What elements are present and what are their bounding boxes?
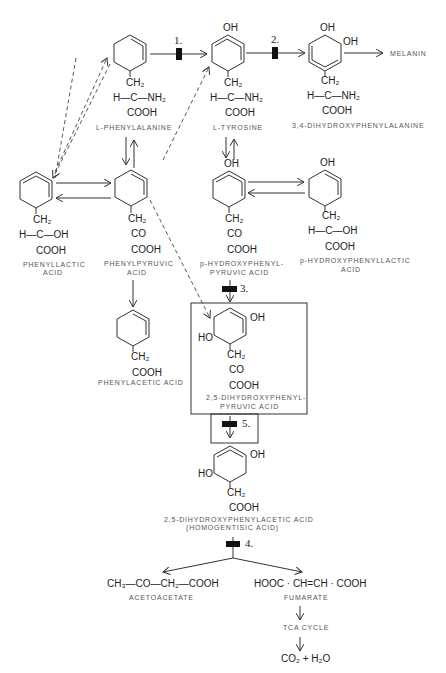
hga-oh: OH: [250, 449, 265, 460]
benzene-ring-icon: [212, 35, 244, 71]
compound-phenylacetic-acid: CH₂ COOH PHENYLACETIC ACID: [98, 310, 184, 386]
enzyme-block-5-icon: [222, 421, 237, 427]
hga-label-2: (HOMOGENTISIC ACID): [186, 524, 279, 532]
compound-dopa: OH OH CH₂ H—C—NH₂ COOH 3,4-DIHYDROXYPHEN…: [292, 22, 424, 129]
co2-h2o-formula: CO₂ + H₂O: [281, 653, 330, 664]
dhpp-ch2: CH₂: [227, 349, 245, 360]
dhpp-cooh: COOH: [229, 380, 259, 391]
hga-ch2: CH₂: [227, 487, 245, 498]
benzene-ring-icon: [214, 446, 246, 482]
compound-phenylpyruvic-acid: CH₂ CO COOH PHENYLPYRUVIC ACID: [104, 170, 174, 276]
dhpp-oh: OH: [250, 312, 265, 323]
benzene-ring-icon: [309, 35, 341, 71]
compound-homogentisic-acid: OH HO CH₂ COOH 2,5-DIHYDROXYPHENYLACETIC…: [164, 446, 314, 532]
arrow-to-fumarate: [233, 558, 302, 572]
hpp-oh: OH: [224, 158, 239, 169]
phenylalanine-hcnh2: H—C—NH₂: [113, 92, 166, 103]
pp-cooh: COOH: [131, 244, 161, 255]
acetoacetate-label: ACETOACETATE: [129, 594, 194, 601]
benzene-ring-icon: [309, 170, 341, 206]
hpl-ch2: CH₂: [322, 210, 340, 221]
benzene-ring-icon: [213, 171, 245, 207]
dashed-line: [55, 58, 76, 178]
compound-hydroxyphenyllactic-acid: OH CH₂ H—C—OH COOH p-HYDROXYPHENYLLACTIC…: [300, 157, 411, 273]
pl-label-1: PHENYLLACTIC: [23, 261, 86, 268]
hpl-label-2: ACID: [341, 266, 361, 273]
hpl-oh: OH: [320, 157, 335, 168]
metabolic-pathway-diagram: CH₂ H—C—NH₂ COOH L-PHENYLALANINE 1. OH C…: [0, 0, 446, 673]
tyrosine-oh: OH: [223, 22, 238, 33]
tyrosine-label: L-TYROSINE: [213, 124, 263, 131]
fumarate-formula: HOOC · CH=CH · COOH: [254, 578, 367, 589]
highlight-box-block-5: [211, 414, 258, 443]
phenylalanine-cooh: COOH: [127, 107, 157, 118]
block-5-label: 5.: [242, 417, 251, 429]
hga-label-1: 2,5-DIHYDROXYPHENYLACETIC ACID: [164, 516, 314, 523]
benzene-ring-icon: [117, 310, 149, 346]
tyrosine-ch2: CH₂: [224, 77, 242, 88]
hpp-label-1: p-HYDROXYPHENYL-: [200, 260, 284, 268]
dashed-arrow-pp-to-tyr: [163, 67, 209, 160]
compound-dihydroxyphenylpyruvic-acid: OH HO CH₂ CO COOH 2,5-DIHYDROXYPHENYL- P…: [198, 308, 306, 410]
dopa-label: 3,4-DIHYDROXYPHENYLALANINE: [292, 122, 424, 129]
enzyme-block-1-icon: [176, 48, 182, 60]
pp-ch2: CH₂: [128, 213, 146, 224]
pp-label-2: ACID: [127, 269, 147, 276]
pp-co: CO: [131, 228, 146, 239]
hpp-label-2: PYRUVIC ACID: [210, 269, 269, 276]
dopa-oh-top: OH: [320, 22, 335, 33]
dashed-arrow-pp-to-dhpp: [150, 200, 210, 318]
fumarate-label: FUMARATE: [284, 594, 328, 601]
benzene-ring-icon: [115, 170, 147, 206]
block-3-label: 3.: [240, 282, 249, 294]
phenylalanine-ch2: CH₂: [126, 77, 144, 88]
pa-cooh: COOH: [132, 367, 162, 378]
enzyme-block-2-icon: [272, 47, 278, 59]
tyrosine-hcnh2: H—C—NH₂: [210, 92, 263, 103]
pl-ch2: CH₂: [33, 214, 51, 225]
pp-label-1: PHENYLPYRUVIC: [104, 260, 174, 267]
pl-cooh: COOH: [36, 245, 66, 256]
dopa-cooh: COOH: [322, 105, 352, 116]
dhpp-label-1: 2,5-DIHYDROXYPHENYL-: [206, 394, 306, 401]
pl-label-2: ACID: [43, 269, 63, 276]
compound-tyrosine: OH CH₂ H—C—NH₂ COOH L-TYROSINE: [210, 22, 263, 131]
tca-label: TCA CYCLE: [283, 624, 329, 631]
melanin-label: MELANIN: [390, 50, 427, 57]
hpp-cooh: COOH: [227, 244, 257, 255]
block-1-label: 1.: [174, 34, 183, 46]
dhpp-co: CO: [229, 364, 244, 375]
pa-label: PHENYLACETIC ACID: [98, 379, 184, 386]
compound-phenylalanine: CH₂ H—C—NH₂ COOH L-PHENYLALANINE: [96, 35, 172, 131]
hpl-hcoh: H—C—OH: [308, 225, 357, 236]
phenylalanine-label: L-PHENYLALANINE: [96, 124, 172, 131]
dhpp-ho: HO: [198, 332, 213, 343]
compound-hydroxyphenylpyruvic-acid: OH CH₂ CO COOH p-HYDROXYPHENYL- PYRUVIC …: [200, 158, 284, 276]
hpp-co: CO: [227, 228, 242, 239]
hpl-cooh: COOH: [325, 241, 355, 252]
enzyme-block-3-icon: [222, 286, 237, 292]
pa-ch2: CH₂: [131, 351, 149, 362]
block-4-label: 4.: [245, 537, 254, 549]
hpl-label-1: p-HYDROXYPHENYLLACTIC: [300, 257, 411, 265]
hga-ho: HO: [198, 468, 213, 479]
acetoacetate-formula: CH₃—CO—CH₂—COOH: [107, 578, 219, 589]
benzene-ring-icon: [214, 308, 246, 344]
hga-cooh: COOH: [229, 502, 259, 513]
compound-phenyllactic-acid: CH₂ H—C—OH COOH PHENYLLACTIC ACID: [19, 172, 86, 276]
dopa-hcnh2: H—C—NH₂: [307, 90, 360, 101]
hpp-ch2: CH₂: [225, 213, 243, 224]
dashed-arrow-pl-to-phe: [55, 58, 107, 172]
dashed-arrow-phe-to-pl: [53, 64, 110, 178]
enzyme-block-4-icon: [226, 541, 240, 547]
tyrosine-cooh: COOH: [225, 107, 255, 118]
benzene-ring-icon: [20, 172, 52, 208]
dhpp-label-2: PYRUVIC ACID: [220, 403, 279, 410]
benzene-ring-icon: [114, 35, 146, 71]
dopa-ch2: CH₂: [321, 75, 339, 86]
arrow-to-acetoacetate: [163, 558, 233, 572]
block-2-label: 2.: [271, 33, 280, 45]
dopa-oh-side: OH: [343, 36, 358, 47]
pl-hcoh: H—C—OH: [19, 229, 68, 240]
